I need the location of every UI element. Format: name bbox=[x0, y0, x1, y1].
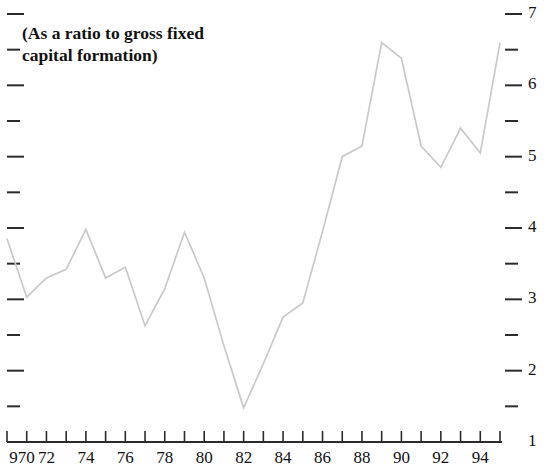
x-axis-label: 90 bbox=[393, 448, 410, 468]
x-axis-label: 76 bbox=[117, 448, 134, 468]
x-axis-label: 72 bbox=[38, 448, 55, 468]
y-axis-label: 5 bbox=[528, 146, 558, 166]
x-axis-label: 74 bbox=[77, 448, 94, 468]
chart-container: (As a ratio to gross fixed capital forma… bbox=[0, 0, 560, 475]
x-axis-label: 92 bbox=[432, 448, 449, 468]
data-series-layer bbox=[7, 43, 500, 408]
y-axis-label: 6 bbox=[528, 74, 558, 94]
data-line-ratio bbox=[7, 43, 500, 408]
x-axis-label: 970 bbox=[9, 448, 35, 468]
x-axis-label: 88 bbox=[353, 448, 370, 468]
x-axis-label: 78 bbox=[156, 448, 173, 468]
x-axis-label: 86 bbox=[314, 448, 331, 468]
axis-layer bbox=[7, 14, 522, 442]
chart-plot-area bbox=[0, 0, 560, 475]
y-axis-label: 1 bbox=[528, 431, 558, 451]
y-axis-label: 7 bbox=[528, 3, 558, 23]
y-axis-label: 2 bbox=[528, 360, 558, 380]
x-axis-label: 94 bbox=[472, 448, 489, 468]
x-axis-label: 80 bbox=[196, 448, 213, 468]
x-axis-label: 82 bbox=[235, 448, 252, 468]
y-axis-label: 4 bbox=[528, 217, 558, 237]
y-axis-label: 3 bbox=[528, 288, 558, 308]
x-axis-label: 84 bbox=[275, 448, 292, 468]
